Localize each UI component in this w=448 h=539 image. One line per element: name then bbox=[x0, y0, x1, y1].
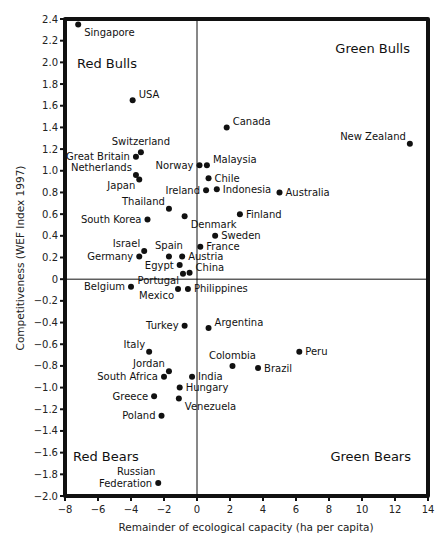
data-point: Spain bbox=[155, 240, 183, 259]
x-tick-label: −8 bbox=[58, 504, 73, 515]
y-tick-label: 0 bbox=[52, 274, 58, 285]
data-point: Japan bbox=[106, 176, 142, 191]
data-point: Netherlands bbox=[71, 162, 139, 178]
point-label: Venezuela bbox=[185, 401, 236, 412]
point-label: Turkey bbox=[145, 320, 179, 331]
point-label: Argentina bbox=[215, 317, 264, 328]
data-point: Peru bbox=[296, 346, 327, 357]
data-point: India bbox=[189, 371, 223, 382]
quadrant-label-red-bears: Red Bears bbox=[73, 449, 139, 464]
y-tick-label: 2.4 bbox=[42, 14, 58, 25]
point-label: USA bbox=[139, 89, 160, 100]
data-point: Malaysia bbox=[204, 154, 257, 168]
y-tick-label: −0.6 bbox=[34, 339, 58, 350]
data-point: Venezuela bbox=[176, 395, 236, 412]
point-label: India bbox=[198, 371, 223, 382]
point-label: Finland bbox=[246, 209, 282, 220]
y-tick-label: −1.8 bbox=[34, 469, 58, 480]
y-tick-label: −0.4 bbox=[34, 317, 58, 328]
data-point: Germany bbox=[87, 251, 142, 262]
point-label: Philippines bbox=[194, 283, 248, 294]
point-label: Brazil bbox=[264, 363, 292, 374]
y-tick-label: 0.4 bbox=[42, 230, 58, 241]
point-label: Netherlands bbox=[71, 162, 132, 173]
data-point: Norway bbox=[156, 160, 203, 171]
point-label: Sweden bbox=[221, 230, 261, 241]
point-label: Russian bbox=[117, 466, 156, 477]
y-tick-label: 1.2 bbox=[42, 144, 58, 155]
point-label: Belgium bbox=[84, 281, 125, 292]
point-label: Ireland bbox=[165, 185, 200, 196]
point-label: Mexico bbox=[139, 290, 174, 301]
data-point: Mexico bbox=[139, 286, 181, 301]
quadrant-label-green-bulls: Green Bulls bbox=[335, 41, 410, 56]
point-label: Jordan bbox=[132, 358, 165, 369]
point-label: South Africa bbox=[97, 371, 158, 382]
y-tick-label: −0.2 bbox=[34, 295, 58, 306]
y-tick-label: −1.2 bbox=[34, 404, 58, 415]
y-tick-label: 2.0 bbox=[42, 57, 58, 68]
data-point: Singapore bbox=[75, 21, 134, 38]
point-label: Denmark bbox=[191, 219, 237, 230]
data-point: Australia bbox=[277, 187, 330, 198]
data-point: South Korea bbox=[81, 214, 151, 225]
data-point: New Zealand bbox=[340, 131, 413, 147]
point-label: Japan bbox=[106, 180, 135, 191]
data-point: Colombia bbox=[209, 350, 256, 369]
point-label: Spain bbox=[155, 240, 183, 251]
data-point: Greece bbox=[112, 391, 157, 402]
y-tick-label: 2.2 bbox=[42, 35, 58, 46]
point-label: Thailand bbox=[121, 196, 165, 207]
y-axis-ticks: 2.42.22.01.81.61.41.21.00.80.60.40.20−0.… bbox=[34, 14, 65, 502]
data-point: Indonesia bbox=[214, 184, 271, 195]
point-label: Norway bbox=[156, 160, 194, 171]
x-tick-label: −2 bbox=[157, 504, 172, 515]
point-label: Canada bbox=[233, 116, 271, 127]
y-tick-label: 0.6 bbox=[42, 209, 58, 220]
point-label: Colombia bbox=[209, 350, 256, 361]
data-point: Belgium bbox=[84, 281, 134, 292]
data-point: Chile bbox=[206, 173, 240, 184]
point-label: Federation bbox=[99, 478, 152, 489]
y-tick-label: 1.0 bbox=[42, 165, 58, 176]
quadrant-label-red-bulls: Red Bulls bbox=[77, 56, 137, 71]
data-point: Egypt bbox=[145, 260, 183, 271]
data-point: Poland bbox=[122, 410, 164, 421]
y-tick-label: −1.0 bbox=[34, 382, 58, 393]
x-tick-label: −6 bbox=[91, 504, 106, 515]
point-label: New Zealand bbox=[340, 131, 406, 142]
x-tick-label: 14 bbox=[422, 504, 435, 515]
data-point: Argentina bbox=[206, 317, 264, 331]
data-point: Hungary bbox=[177, 382, 229, 393]
data-point: Denmark bbox=[182, 213, 237, 230]
x-tick-label: 12 bbox=[389, 504, 402, 515]
data-point: Italy bbox=[123, 339, 152, 355]
data-point: Ireland bbox=[165, 185, 209, 196]
y-tick-label: 1.4 bbox=[42, 122, 58, 133]
point-label: Peru bbox=[305, 346, 327, 357]
point-label: Singapore bbox=[84, 27, 134, 38]
point-label: Indonesia bbox=[223, 184, 271, 195]
y-tick-label: −0.8 bbox=[34, 360, 58, 371]
y-tick-label: 0.8 bbox=[42, 187, 58, 198]
x-tick-label: −4 bbox=[124, 504, 139, 515]
x-tick-label: 6 bbox=[293, 504, 299, 515]
point-label: Great Britain bbox=[66, 151, 130, 162]
data-point: Brazil bbox=[255, 363, 292, 374]
x-tick-label: 4 bbox=[260, 504, 266, 515]
data-point: Turkey bbox=[145, 320, 188, 331]
y-axis-title: Competitiveness (WEF Index 1997) bbox=[14, 166, 26, 351]
point-label: Greece bbox=[112, 391, 148, 402]
y-tick-label: −1.4 bbox=[34, 425, 58, 436]
point-label: Switzerland bbox=[112, 136, 170, 147]
point-label: Malaysia bbox=[213, 154, 257, 165]
point-label: Israel bbox=[113, 238, 140, 249]
data-point: Finland bbox=[237, 209, 282, 220]
data-point: Thailand bbox=[121, 196, 172, 212]
scatter-chart: −8−6−4−202468101214 2.42.22.01.81.61.41.… bbox=[0, 0, 448, 539]
data-points: SingaporeUSACanadaNew ZealandSwitzerland… bbox=[66, 21, 413, 489]
point-label: Egypt bbox=[145, 260, 174, 271]
data-point: South Africa bbox=[97, 371, 167, 382]
point-label: South Korea bbox=[81, 214, 142, 225]
point-label: Australia bbox=[286, 187, 330, 198]
